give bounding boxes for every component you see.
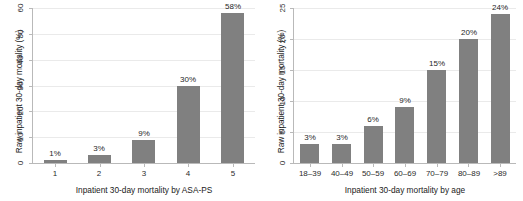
x-tick-mark (500, 164, 501, 167)
bar-value-label: 6% (357, 115, 389, 125)
bar (132, 140, 155, 163)
y-tick-label: 60 (16, 1, 26, 15)
x-tick-mark (437, 164, 438, 167)
bar (332, 144, 351, 163)
x-tick-label: 3 (122, 168, 166, 179)
bar-value-label: 1% (33, 149, 77, 159)
y-tick-label: 15 (278, 63, 288, 77)
bar-value-label: 3% (294, 133, 326, 143)
gridline (294, 70, 516, 71)
bar (395, 107, 414, 163)
y-tick-label: 0 (278, 156, 288, 170)
x-axis-title-right: Inpatient 30-day mortality by age (294, 184, 516, 196)
bar-value-label: 20% (453, 28, 485, 38)
figure-two-panel-bar-charts: Raw inpatient 30-day mortality (%) 01020… (0, 0, 523, 201)
bar (364, 126, 383, 163)
plot-area-right: 3%3%6%9%15%20%24% (294, 8, 516, 163)
gridline (294, 39, 516, 40)
x-tick-mark (342, 164, 343, 167)
panel-age: Raw inpatient 30-day mortality (%) 05101… (262, 0, 523, 201)
y-tick-label: 30 (16, 79, 26, 93)
x-tick-label: 80–89 (453, 168, 485, 179)
bar-value-label: 58% (211, 2, 255, 12)
y-tick-label: 25 (278, 1, 288, 15)
bar (177, 86, 200, 164)
y-tick-label: 5 (278, 125, 288, 139)
y-tick-label: 10 (16, 130, 26, 144)
bar-value-label: 15% (421, 59, 453, 69)
bar-value-label: 24% (484, 3, 516, 13)
bar-value-label: 30% (166, 75, 210, 85)
bar-value-label: 9% (122, 129, 166, 139)
x-axis-title-left: Inpatient 30-day mortality by ASA-PS (33, 184, 255, 196)
bar-value-label: 9% (389, 96, 421, 106)
bar (221, 13, 244, 163)
x-tick-mark (144, 164, 145, 167)
x-tick-label: 60–69 (389, 168, 421, 179)
x-tick-label: 5 (211, 168, 255, 179)
x-tick-label: 1 (33, 168, 77, 179)
x-tick-mark (233, 164, 234, 167)
x-tick-label: 70–79 (421, 168, 453, 179)
x-tick-mark (55, 164, 56, 167)
x-tick-label: 4 (166, 168, 210, 179)
y-tick-label: 50 (16, 27, 26, 41)
x-tick-label: >89 (484, 168, 516, 179)
x-tick-mark (188, 164, 189, 167)
y-tick-label: 10 (278, 94, 288, 108)
y-axis-line (32, 8, 33, 163)
y-tick-label: 20 (16, 104, 26, 118)
bar (427, 70, 446, 163)
bar-value-label: 3% (326, 133, 358, 143)
x-tick-mark (405, 164, 406, 167)
x-tick-mark (310, 164, 311, 167)
bar (88, 155, 111, 163)
panel-asa-ps: Raw inpatient 30-day mortality (%) 01020… (0, 0, 262, 201)
y-tick-label: 40 (16, 53, 26, 67)
x-tick-mark (468, 164, 469, 167)
x-tick-mark (373, 164, 374, 167)
bar (300, 144, 319, 163)
bar-value-label: 3% (77, 144, 121, 154)
y-tick-label: 20 (278, 32, 288, 46)
bar (491, 14, 510, 163)
gridline (294, 8, 516, 9)
y-axis-ticks-left: 0102030405060 (14, 0, 30, 201)
plot-area-left: 1%3%9%30%58% (33, 8, 255, 163)
x-tick-label: 40–49 (326, 168, 358, 179)
x-tick-label: 50–59 (357, 168, 389, 179)
x-tick-label: 18–39 (294, 168, 326, 179)
y-axis-line (293, 8, 294, 163)
x-tick-mark (100, 164, 101, 167)
bar (459, 39, 478, 163)
y-tick-label: 0 (16, 156, 26, 170)
x-tick-label: 2 (77, 168, 121, 179)
